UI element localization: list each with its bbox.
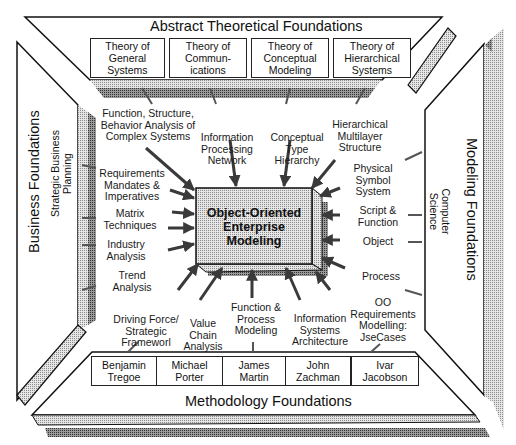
label-information-processing-network: InformationProcessingNetwork [190, 132, 264, 167]
label-object: Object [358, 236, 398, 248]
bottom-box-james-martin: JamesMartin [222, 356, 286, 386]
top-frame-title: Abstract Theoretical Foundations [150, 18, 363, 34]
label-oo-requirements-modelling: OORequirementsModelling:JseCases [346, 297, 420, 343]
label-industry-analysis: IndustryAnalysis [98, 239, 154, 262]
label-value-chain-analysis: ValueChainAnalysis [178, 318, 228, 353]
label-matrix-techniques: MatrixTechniques [98, 208, 162, 231]
left-frame-subtitle: Strategic Business Planning [50, 129, 73, 219]
bottom-box-john-zachman: JohnZachman [285, 356, 351, 386]
label-requirements-mandates: RequirementsMandates &Imperatives [96, 168, 168, 203]
label-hierarchical-multilayer-structure: HierarchicalMultilayerStructure [320, 119, 400, 154]
label-function-process-modeling: Function &ProcessModeling [226, 302, 286, 337]
label-driving-force-strategic: Driving Force/StrategicFrameworl [108, 314, 184, 349]
label-process: Process [356, 271, 406, 283]
center-title: Object-OrientedEnterpriseModeling [196, 190, 312, 264]
label-physical-symbol-system: PhysicalSymbolSystem [348, 163, 398, 198]
label-function-structure-behavior: Function, Structure,Behavior Analysis of… [92, 108, 204, 143]
top-box-conceptual-modeling: Theory ofConceptualModeling [251, 38, 329, 78]
label-trend-analysis: TrendAnalysis [104, 270, 160, 293]
top-box-communications: Theory ofCommun-ications [169, 38, 247, 78]
bottom-frame-title: Methodology Foundations [185, 393, 352, 409]
label-script-function: Script &Function [353, 205, 403, 228]
right-frame-title: Modeling Foundations [464, 138, 480, 278]
bottom-box-michael-porter: MichaelPorter [156, 356, 223, 386]
left-frame-title: Business Foundations [26, 113, 42, 253]
bottom-box-ivar-jacobson: IvarJacobson [351, 356, 419, 386]
top-box-general-systems: Theory ofGeneralSystems [90, 38, 165, 78]
top-box-hierarchical-systems: Theory ofHierarchicalSystems [333, 38, 411, 78]
label-information-systems-architecture: InformationSystemsArchitecture [288, 313, 352, 348]
right-frame-subtitle: Computer Science [428, 182, 451, 242]
bottom-box-benjamin-tregoe: BenjaminTregoe [91, 356, 157, 386]
